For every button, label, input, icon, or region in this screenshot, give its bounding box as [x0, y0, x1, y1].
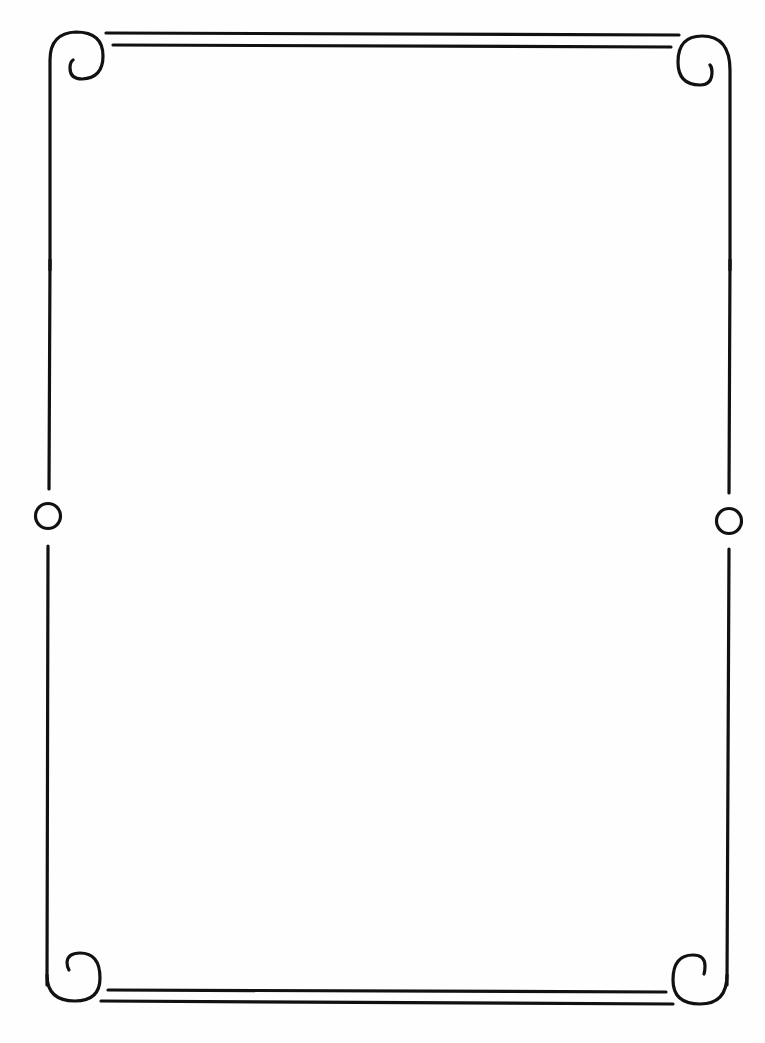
bottom-left-scroll-icon [47, 953, 100, 1001]
page-content-area [90, 90, 675, 950]
right-rule-upper [729, 260, 730, 493]
top-right-scroll-icon [678, 36, 730, 270]
left-rule-upper [49, 260, 50, 489]
top-double-rule [106, 33, 679, 47]
page-frame [0, 0, 765, 1043]
left-rule-lower [47, 546, 48, 985]
bottom-double-rule [101, 990, 673, 1004]
right-ring-icon [717, 509, 742, 534]
right-rule-lower [727, 549, 729, 985]
bottom-right-scroll-icon [673, 955, 727, 1004]
left-ring-icon [36, 504, 61, 529]
